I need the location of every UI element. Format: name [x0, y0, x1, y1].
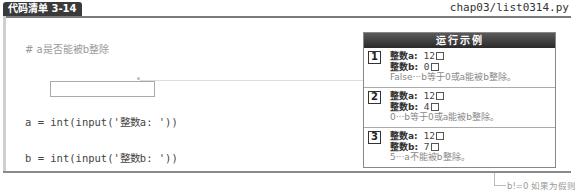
- input-a-label: 整数a:: [390, 51, 418, 61]
- input-a-value: 12: [423, 130, 434, 141]
- annotation-connector-line: [140, 80, 392, 81]
- code-line-input-a: a = int(input('整数a: ')): [25, 116, 212, 128]
- input-a-label: 整数a:: [390, 91, 418, 101]
- enter-key-icon: [431, 63, 439, 71]
- example-number-badge: 3: [368, 131, 381, 144]
- enter-key-icon: [436, 132, 444, 140]
- enter-key-icon: [436, 92, 444, 100]
- code-left-border: [3, 16, 6, 172]
- example-number-badge: 2: [368, 91, 381, 104]
- top-divider: [3, 16, 571, 18]
- enter-key-icon: [436, 52, 444, 60]
- input-b-value: 4: [424, 101, 430, 112]
- file-path: chap03/list0314.py: [450, 1, 569, 14]
- output-line: 0···b等于0或a能被b整除。: [390, 112, 555, 123]
- input-b-label: 整数b:: [390, 102, 418, 112]
- output-line: 5···a不能被b整除。: [390, 152, 555, 163]
- expression-highlight-box: [50, 81, 155, 97]
- run-example-panel: 运行示例 1 整数a: 12 整数b: 0 False···b等于0或a能被b整…: [363, 32, 556, 168]
- input-a-label: 整数a:: [390, 131, 418, 141]
- code-block: # a是否能被b整除 a = int(input('整数a: ')) b = i…: [25, 20, 212, 194]
- example-number-badge: 1: [368, 51, 381, 64]
- code-line-input-b: b = int(input('整数b: ')): [25, 152, 212, 164]
- run-example: 2 整数a: 12 整数b: 4 0···b等于0或a能被b整除。: [364, 88, 555, 128]
- run-example: 1 整数a: 12 整数b: 0 False···b等于0或a能被b整除。: [364, 48, 555, 88]
- input-b-label: 整数b:: [390, 62, 418, 72]
- run-example: 3 整数a: 12 整数b: 7 5···a不能被b整除。: [364, 128, 555, 168]
- annotation-connector-horizontal: [494, 185, 506, 186]
- input-b-value: 0: [424, 61, 430, 72]
- annotation-note: b!=0 如果为假则不求值: [507, 179, 575, 191]
- code-line-blank: [25, 188, 212, 194]
- listing-title: 代码清单 3-14: [3, 2, 82, 16]
- run-example-title: 运行示例: [364, 33, 555, 48]
- input-a-value: 12: [423, 50, 434, 61]
- input-b-label: 整数b:: [390, 142, 418, 152]
- input-a-value: 12: [423, 90, 434, 101]
- input-b-value: 7: [424, 141, 430, 152]
- output-line: False···b等于0或a能被b整除。: [390, 72, 555, 83]
- annotation-connector-vertical: [494, 173, 495, 185]
- enter-key-icon: [431, 103, 439, 111]
- code-line-comment: # a是否能被b整除: [25, 44, 212, 56]
- enter-key-icon: [431, 143, 439, 151]
